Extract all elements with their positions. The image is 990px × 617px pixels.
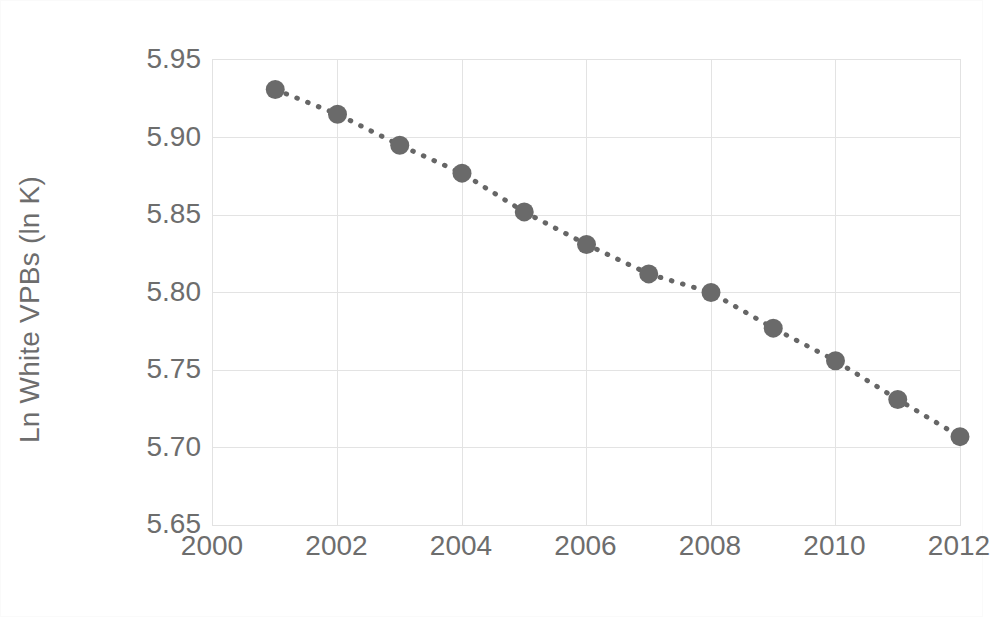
data-point-marker [702, 283, 721, 302]
y-axis-tick-label: 5.75 [109, 353, 201, 385]
x-axis-tick-label: 2004 [430, 530, 492, 562]
data-point-marker [266, 80, 285, 99]
data-point-marker [577, 235, 596, 254]
x-axis-tick-label: 2000 [181, 530, 243, 562]
plot-svg [213, 60, 960, 525]
y-axis-tick-label: 5.95 [109, 43, 201, 75]
plot-area [212, 59, 961, 526]
data-point-marker [826, 351, 845, 370]
y-axis-tick-label: 5.85 [109, 198, 201, 230]
x-axis-tick-label: 2010 [803, 530, 865, 562]
y-axis-tick-labels: 5.655.705.755.805.855.905.95 [109, 59, 201, 524]
x-axis-tick-label: 2012 [928, 530, 990, 562]
data-point-marker [328, 105, 347, 124]
data-point-marker [764, 319, 783, 338]
y-axis-title: Ln White VPBs (ln K) [1, 1, 59, 617]
x-axis-tick-labels: 2000200220042006200820102012 [1, 530, 984, 580]
series-dotted-line [275, 89, 960, 436]
y-axis-tick-label: 5.70 [109, 431, 201, 463]
data-point-marker [390, 136, 409, 155]
data-point-marker [951, 427, 970, 446]
data-point-marker [639, 264, 658, 283]
y-axis-tick-label: 5.90 [109, 121, 201, 153]
y-axis-tick-label: 5.80 [109, 276, 201, 308]
data-point-marker [515, 202, 534, 221]
data-point-marker [888, 390, 907, 409]
x-axis-tick-label: 2006 [554, 530, 616, 562]
data-point-marker [453, 164, 472, 183]
x-axis-tick-label: 2008 [679, 530, 741, 562]
series-markers [266, 80, 970, 446]
x-axis-tick-label: 2002 [305, 530, 367, 562]
